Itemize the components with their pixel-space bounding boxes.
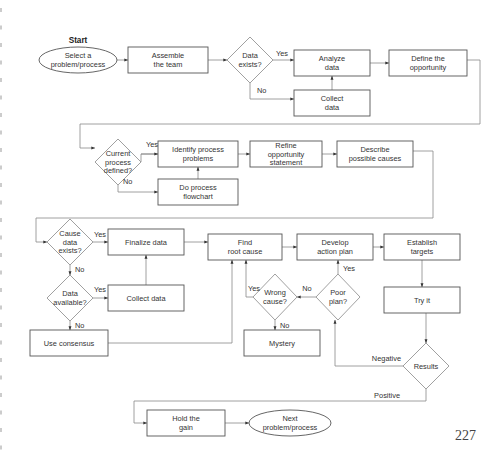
- node-do-flowchart: Do processflowchart: [158, 179, 238, 205]
- node-label-line: defined?: [104, 166, 132, 175]
- binding-dot: [0, 446, 2, 450]
- node-label-line: exists?: [58, 246, 81, 255]
- node-assemble-team: Assemblethe team: [128, 47, 208, 73]
- node-label-line: Collect data: [126, 294, 166, 303]
- node-identify-problems: Identify processproblems: [158, 141, 238, 167]
- node-label-line: the team: [154, 60, 183, 69]
- binding-dot: [0, 8, 2, 12]
- edge-current-no: [118, 185, 158, 192]
- edge-label-poor-plan-yes: Yes: [343, 264, 355, 273]
- node-poor-plan: Poorplan?: [316, 274, 360, 320]
- flowchart-canvas: Select aproblem/processAssemblethe teamD…: [0, 0, 504, 462]
- node-analyze-data: Analyzedata: [294, 50, 370, 76]
- node-label-line: Mystery: [269, 339, 295, 348]
- node-label-line: plan?: [329, 297, 347, 306]
- node-develop-plan: Developaction plan: [297, 234, 373, 260]
- edge-label-data-exists-yes: Yes: [276, 49, 288, 58]
- binding-dot: [0, 393, 2, 397]
- node-finalize-data: Finalize data: [108, 229, 184, 255]
- binding-dot: [0, 218, 2, 222]
- node-label-line: flowchart: [183, 192, 213, 201]
- node-label-line: Finalize data: [125, 238, 168, 247]
- node-current-process-defined: Currentprocessdefined?: [95, 139, 141, 185]
- node-label-line: action plan: [317, 247, 353, 256]
- node-hold-gain: Hold thegain: [147, 410, 225, 436]
- binding-dot: [0, 61, 2, 65]
- binding-dot: [0, 183, 2, 187]
- node-collect-data-1: Collectdata: [294, 90, 370, 116]
- node-label-line: problem/process: [263, 423, 318, 432]
- edge-label-data-exists-no: No: [257, 86, 266, 95]
- node-label-line: Try it: [414, 296, 430, 305]
- flowchart-page: Select aproblem/processAssemblethe teamD…: [0, 0, 504, 462]
- edge-label-cause-data-yes: Yes: [94, 230, 106, 239]
- node-mystery: Mystery: [244, 330, 320, 356]
- node-label-line: data: [325, 63, 340, 72]
- binding-dot: [0, 358, 2, 362]
- edge-label-wrong-cause-yes: Yes: [248, 284, 260, 293]
- edge-label-poor-plan-no: No: [302, 284, 311, 293]
- edge-label-data-available-yes: Yes: [94, 285, 106, 294]
- edge-current-yes: [141, 154, 158, 162]
- edge-label-wrong-cause-no: No: [280, 321, 289, 330]
- page-number: 227: [455, 428, 476, 443]
- node-use-consensus: Use consensus: [30, 330, 108, 356]
- node-label-line: available?: [53, 298, 86, 307]
- node-label-line: statement: [270, 158, 302, 167]
- node-data-exists: Dataexists?: [227, 37, 273, 83]
- node-next-problem: Nextproblem/process: [249, 410, 331, 436]
- node-label-line: cause?: [263, 297, 287, 306]
- binding-dot: [0, 113, 2, 117]
- binding-dot: [0, 271, 2, 275]
- node-results: Results: [403, 343, 449, 389]
- binding-dot: [0, 96, 2, 100]
- node-define-opportunity: Define theopportunity: [389, 50, 467, 76]
- node-label-line: opportunity: [410, 63, 447, 72]
- binding-dot: [0, 78, 2, 82]
- node-data-available: Dataavailable?: [47, 275, 93, 321]
- node-collect-data-2: Collect data: [108, 285, 184, 311]
- binding-dot: [0, 341, 2, 345]
- node-label-line: root cause: [228, 247, 263, 256]
- edge-label-data-available-no: No: [75, 321, 84, 330]
- node-label-line: problems: [183, 154, 214, 163]
- binding-dot: [0, 253, 2, 257]
- node-select-problem: Select aproblem/process: [39, 47, 117, 73]
- binding-dot: [0, 411, 2, 415]
- binding-dot: [0, 166, 2, 170]
- node-describe-causes: Describepossible causes: [337, 141, 413, 167]
- edge-label-current-yes: Yes: [146, 140, 158, 149]
- binding-dot: [0, 306, 2, 310]
- node-wrong-cause: Wrongcause?: [253, 274, 297, 320]
- node-try-it: Try it: [384, 287, 460, 313]
- binding-dot: [0, 323, 2, 327]
- binding-dot: [0, 26, 2, 30]
- node-establish-targets: Establishtargets: [384, 234, 460, 260]
- node-find-root-cause: Findroot cause: [208, 234, 282, 260]
- node-refine-statement: Refineopportunitystatement: [250, 141, 322, 167]
- binding-dot: [0, 201, 2, 205]
- node-label-line: Results: [414, 362, 439, 371]
- binding-dot: [0, 43, 2, 47]
- node-label-line: data: [325, 103, 340, 112]
- node-label-line: gain: [179, 423, 193, 432]
- binding-dot: [0, 376, 2, 380]
- binding-dot: [0, 288, 2, 292]
- binding-dot: [0, 131, 2, 135]
- binding-dot: [0, 148, 2, 152]
- node-label-line: possible causes: [349, 154, 402, 163]
- binding-dot: [0, 428, 2, 432]
- node-label-line: exists?: [238, 60, 261, 69]
- node-cause-data-exists: Causedataexists?: [47, 219, 93, 265]
- page-binding-edge: [0, 8, 2, 450]
- edge-label-results-positive: Positive: [374, 391, 400, 400]
- node-label-line: problem/process: [51, 60, 106, 69]
- edge-label-cause-data-no: No: [75, 265, 84, 274]
- binding-dot: [0, 236, 2, 240]
- edge-label-current-no: No: [123, 177, 132, 186]
- start-label: Start: [69, 36, 88, 45]
- node-label-line: targets: [411, 247, 434, 256]
- node-label-line: Use consensus: [44, 339, 95, 348]
- edge-label-results-negative: Negative: [372, 354, 401, 363]
